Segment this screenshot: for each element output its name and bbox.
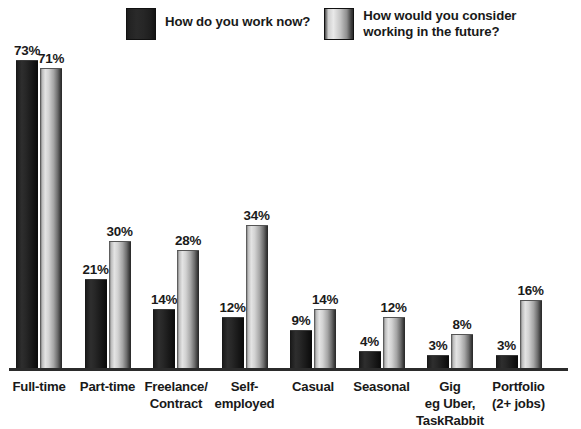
bar-pair: 3%16% [496, 283, 542, 368]
bar-current[interactable] [359, 351, 381, 368]
bar-future[interactable] [520, 300, 542, 368]
bar-future[interactable] [40, 68, 62, 368]
bar-future-value-label: 71% [38, 51, 64, 66]
bar-chart: How do you work now? How would you consi… [0, 0, 581, 429]
bar-current[interactable] [85, 279, 107, 368]
bar-future[interactable] [383, 317, 405, 368]
bar-future-value-label: 12% [380, 300, 406, 315]
bar-future-value-label: 34% [243, 208, 269, 223]
bar-current-wrapper: 4% [359, 334, 381, 368]
bar-current-value-label: 73% [14, 43, 40, 58]
bar-current-value-label: 9% [292, 313, 311, 328]
bar-current-value-label: 3% [497, 338, 516, 353]
x-axis-baseline [9, 368, 568, 371]
bar-future-value-label: 30% [106, 224, 132, 239]
bar-current[interactable] [496, 355, 518, 368]
bar-future-value-label: 16% [517, 283, 543, 298]
bar-current-wrapper: 3% [427, 338, 449, 368]
bar-future-wrapper: 71% [40, 51, 62, 368]
bar-future-value-label: 8% [453, 317, 472, 332]
bar-current-value-label: 4% [360, 334, 379, 349]
bar-future-wrapper: 8% [451, 317, 473, 368]
bar-current[interactable] [427, 355, 449, 368]
bar-future-wrapper: 30% [109, 224, 131, 368]
bar-future[interactable] [109, 241, 131, 368]
plot-area: 73%71%21%30%14%28%12%34%9%14%4%12%3%8%3%… [0, 0, 581, 429]
bar-current[interactable] [16, 60, 38, 368]
bar-pair: 21%30% [85, 224, 131, 368]
bar-future-wrapper: 16% [520, 283, 542, 368]
bar-current-wrapper: 73% [16, 43, 38, 368]
bar-future-value-label: 14% [312, 292, 338, 307]
bar-current-value-label: 3% [429, 338, 448, 353]
bar-future-wrapper: 28% [177, 233, 199, 368]
bar-future[interactable] [314, 309, 336, 368]
bar-current-value-label: 14% [151, 292, 177, 307]
bar-pair: 12%34% [222, 208, 268, 368]
bar-future[interactable] [177, 250, 199, 368]
bar-current[interactable] [222, 317, 244, 368]
x-axis-label: Portfolio (2+ jobs) [469, 378, 569, 412]
bar-current[interactable] [290, 330, 312, 368]
bar-current-wrapper: 21% [85, 262, 107, 368]
bar-pair: 3%8% [427, 317, 473, 368]
bar-current-value-label: 12% [219, 300, 245, 315]
bar-future-value-label: 28% [175, 233, 201, 248]
bar-current-wrapper: 12% [222, 300, 244, 368]
bar-current[interactable] [153, 309, 175, 368]
bar-current-value-label: 21% [82, 262, 108, 277]
bar-current-wrapper: 14% [153, 292, 175, 368]
bar-future-wrapper: 12% [383, 300, 405, 368]
bar-future[interactable] [451, 334, 473, 368]
bar-pair: 14%28% [153, 233, 199, 368]
bar-pair: 4%12% [359, 300, 405, 368]
bar-pair: 73%71% [16, 43, 62, 368]
bar-future-wrapper: 34% [246, 208, 268, 368]
bar-future-wrapper: 14% [314, 292, 336, 368]
bar-future[interactable] [246, 225, 268, 368]
bar-pair: 9%14% [290, 292, 336, 368]
bar-current-wrapper: 9% [290, 313, 312, 368]
bar-current-wrapper: 3% [496, 338, 518, 368]
